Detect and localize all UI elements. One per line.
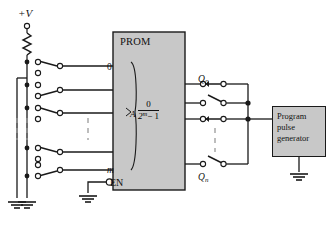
address-switch-row-0[interactable] [25, 59, 113, 75]
switch-lever[interactable] [208, 95, 222, 102]
switch-pole-terminal [35, 59, 40, 64]
prom-address-bottom-label: m [107, 166, 114, 176]
junction-dot [25, 83, 30, 88]
switch-common-terminal [57, 110, 62, 115]
switch-left-terminal [200, 100, 205, 105]
supply-terminal-icon [24, 23, 29, 28]
address-switch-row-3[interactable] [25, 145, 113, 161]
switch-common-terminal [57, 87, 62, 92]
ppg-line-1: Program [277, 111, 327, 122]
switch-common-terminal [57, 63, 62, 68]
enable-wire [88, 182, 106, 193]
program-pulse-generator-label: Program pulse generator [275, 111, 327, 145]
output-label-qn: Qn [198, 173, 208, 184]
denominator-tail: − 1 [147, 111, 159, 121]
output-switch-1[interactable] [200, 95, 248, 106]
switch-right-terminal [221, 161, 226, 166]
prom-enable-label: EN [110, 178, 123, 188]
pulse-generator-ground [290, 157, 308, 180]
prom-data-range-numerator: 0 [138, 100, 159, 111]
switch-lever[interactable] [41, 108, 58, 113]
q0-letter: Q [198, 74, 205, 84]
switch-pole-terminal [35, 105, 40, 110]
junction-dot [25, 146, 30, 151]
switch-common-terminal [57, 167, 62, 172]
output-collector-bus [245, 84, 272, 164]
q0-subscript: 0 [205, 78, 209, 86]
switch-right-terminal [221, 116, 226, 121]
prom-data-range: 0 2m− 1 [138, 100, 159, 122]
figure-canvas: +V PROM 0 m A EN 0 2m− 1 Q0 Qn Program p… [0, 0, 332, 237]
switch-pole-terminal [35, 82, 40, 87]
address-switch-row-m[interactable] [25, 162, 113, 178]
prom-address-top-label: 0 [107, 63, 112, 73]
switch-lever[interactable] [41, 62, 58, 67]
zigzag-resistor-icon [23, 33, 31, 55]
supply-label: +V [18, 8, 32, 19]
output-label-q0: Q0 [198, 75, 208, 86]
left-bus-rails [8, 62, 36, 208]
switch-throw-terminal [35, 116, 40, 121]
ground-icon-enable [79, 196, 97, 202]
switch-lever-arrow-icon [206, 116, 209, 121]
switch-lever[interactable] [208, 156, 222, 163]
output-switch-qn[interactable] [200, 156, 248, 167]
prom-title: PROM [120, 37, 151, 48]
switch-lever[interactable] [41, 171, 58, 176]
switch-pole-terminal [35, 145, 40, 150]
switch-throw-terminal [35, 162, 40, 167]
address-switch-row-2[interactable] [25, 105, 113, 121]
ppg-line-3: generator [277, 133, 327, 144]
switch-left-terminal [200, 116, 205, 121]
switch-throw-terminal [35, 156, 40, 161]
prom-data-range-denominator: 2m− 1 [138, 111, 159, 122]
switch-right-terminal [221, 81, 226, 86]
junction-dot [25, 174, 30, 179]
qn-subscript: n [205, 176, 209, 184]
junction-dot [25, 106, 30, 111]
switch-right-terminal [221, 100, 226, 105]
ppg-line-2: pulse [277, 122, 327, 133]
switch-throw-terminal [35, 93, 40, 98]
switch-throw-terminal [35, 70, 40, 75]
switch-common-terminal [57, 149, 62, 154]
switch-lever[interactable] [41, 148, 58, 153]
ground-icon-ppg [290, 174, 308, 180]
switch-left-terminal [200, 161, 205, 166]
junction-dot [245, 100, 250, 105]
switch-lever[interactable] [41, 91, 58, 96]
junction-dot [25, 60, 30, 65]
switch-pole-terminal [35, 173, 40, 178]
prom-address-group-label: A [130, 110, 136, 119]
output-switch-2[interactable] [200, 116, 248, 121]
address-switch-row-1[interactable] [25, 82, 113, 98]
supply-branch [23, 23, 31, 62]
qn-letter: Q [198, 172, 205, 182]
